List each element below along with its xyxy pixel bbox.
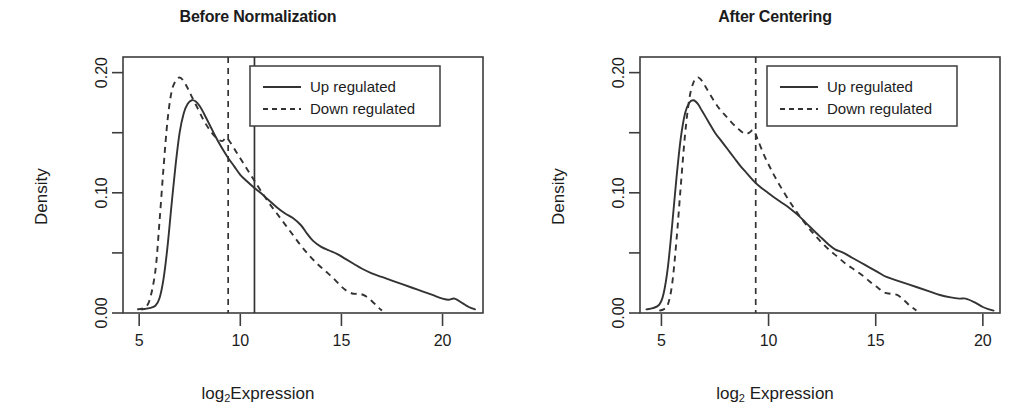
series-curve-solid [141,100,475,309]
figure-density-plots: Before Normalization Density 0.000.100.2… [0,0,1033,410]
x-tick-label: 20 [434,332,452,349]
series-curve-solid [646,100,993,310]
y-tick-label: 0.00 [610,297,627,328]
x-tick-label: 15 [333,332,351,349]
legend-box [767,66,957,126]
x-tick-label: 5 [657,332,666,349]
y-tick-label: 0.10 [93,177,110,208]
x-tick-label: 5 [135,332,144,349]
legend-box [250,66,440,126]
x-axis-label-left-pre: log [202,384,225,403]
y-tick-label: 0.20 [93,57,110,88]
legend-label: Up regulated [310,78,396,95]
plot-area-right: 0.000.100.205101520Up regulatedDown regu… [517,0,1033,410]
y-tick-label: 0.20 [610,57,627,88]
legend: Up regulatedDown regulated [767,66,957,126]
legend-label: Down regulated [310,100,415,117]
x-axis-label-left: log2Expression [0,384,516,404]
legend-label: Down regulated [827,100,932,117]
x-axis-label-left-subscript: 2 [224,392,230,404]
x-tick-label: 10 [231,332,249,349]
plot-area-left: 0.000.100.205101520Up regulatedDown regu… [0,0,516,410]
x-tick-label: 10 [760,332,778,349]
x-axis-label-right-subscript: 2 [739,392,745,404]
y-tick-label: 0.10 [610,177,627,208]
panel-before-normalization: Before Normalization Density 0.000.100.2… [0,0,516,410]
legend: Up regulatedDown regulated [250,66,440,126]
legend-label: Up regulated [827,78,913,95]
y-tick-label: 0.00 [93,297,110,328]
x-axis-label-right-pre: log [716,384,739,403]
panel-after-centering: After Centering Density 0.000.100.205101… [517,0,1033,410]
x-axis-label-right: log2 Expression [517,384,1033,404]
x-tick-label: 20 [974,332,992,349]
x-axis-label-left-post: Expression [230,384,314,403]
x-axis-label-right-post: Expression [745,384,834,403]
x-tick-label: 15 [867,332,885,349]
